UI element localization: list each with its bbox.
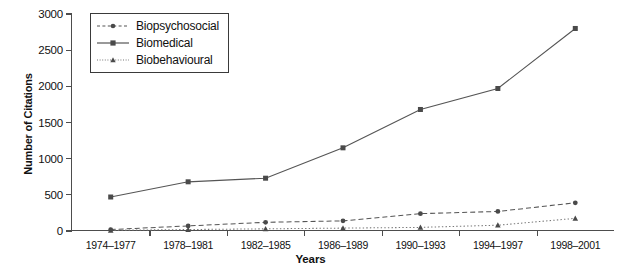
legend-item-biomedical: Biomedical [96, 34, 219, 51]
y-tick-label: 2000 [38, 80, 63, 92]
x-axis-title: Years [0, 253, 621, 265]
x-tick-label: 1978–1981 [163, 239, 213, 251]
data-point [418, 224, 424, 229]
data-point [108, 195, 113, 200]
legend-item-biopsychosocial: Biopsychosocial [96, 17, 219, 34]
y-axis-title: Number of Citations [22, 44, 34, 204]
x-tick-label: 1998–2001 [550, 239, 600, 251]
data-point [573, 26, 578, 31]
x-tick-label: 1994–1997 [473, 239, 523, 251]
legend-label-biopsychosocial: Biopsychosocial [136, 19, 219, 33]
data-point [263, 176, 268, 181]
data-point [495, 209, 500, 214]
data-point [341, 218, 346, 223]
y-tick-label: 3000 [38, 8, 63, 20]
x-tick-label: 1990–1993 [395, 239, 445, 251]
data-point [263, 226, 269, 231]
x-tick-label: 1982–1985 [241, 239, 291, 251]
y-tick-label: 2500 [38, 44, 63, 56]
y-tick-label: 1500 [38, 117, 63, 129]
data-point [186, 179, 191, 184]
y-tick-label: 0 [57, 225, 63, 237]
data-point [573, 200, 578, 205]
legend-key-biopsychosocial [96, 19, 130, 33]
chart-legend: Biopsychosocial Biomedical Biobehavioura… [90, 13, 229, 73]
data-point [418, 107, 423, 112]
legend-label-biobehavioural: Biobehavioural [136, 53, 213, 67]
y-tick-label: 500 [44, 189, 63, 201]
legend-key-biomedical [96, 36, 130, 50]
legend-item-biobehavioural: Biobehavioural [96, 51, 219, 68]
x-tick-label: 1974–1977 [86, 239, 136, 251]
legend-key-biobehavioural [96, 53, 130, 67]
data-point [572, 215, 578, 220]
data-point [495, 86, 500, 91]
data-point [263, 220, 268, 225]
x-tick-label: 1986–1989 [318, 239, 368, 251]
data-point [418, 211, 423, 216]
series-biobehavioural [108, 215, 578, 232]
y-tick-label: 1000 [38, 153, 63, 165]
citations-line-chart: Number of Citations 05001000150020002500… [0, 0, 621, 272]
legend-label-biomedical: Biomedical [136, 36, 193, 50]
data-point [341, 145, 346, 150]
